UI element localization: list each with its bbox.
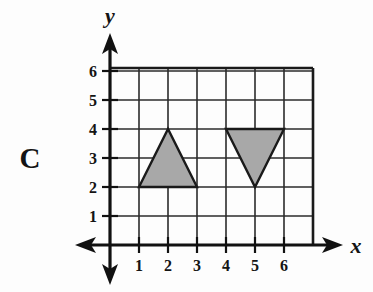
x-tick-label: 2 [164, 257, 172, 274]
y-tick-label: 4 [89, 121, 97, 138]
y-tick-label: 5 [89, 92, 97, 109]
figure-letter-label: C [20, 142, 41, 174]
y-axis-tick-labels: 1 2 3 4 5 6 [89, 63, 97, 225]
x-tick-label: 4 [222, 257, 230, 274]
grid-frame [110, 68, 313, 245]
y-tick-label: 6 [89, 63, 97, 80]
y-tick-label: 1 [89, 208, 97, 225]
x-tick-label: 3 [193, 257, 201, 274]
x-tick-label: 5 [251, 257, 259, 274]
x-axis-tick-labels: 1 2 3 4 5 6 [135, 257, 288, 274]
figure-panel: 1 2 3 4 5 6 1 2 3 4 5 6 y x C [0, 0, 373, 292]
coordinate-plane-figure: 1 2 3 4 5 6 1 2 3 4 5 6 y x C [0, 0, 373, 292]
x-tick-label: 1 [135, 257, 143, 274]
x-axis-label: x [350, 233, 362, 258]
x-tick-label: 6 [280, 257, 288, 274]
y-tick-label: 3 [89, 150, 97, 167]
y-tick-label: 2 [89, 179, 97, 196]
y-axis-label: y [102, 3, 115, 28]
grid-horizontal-lines [110, 71, 313, 216]
